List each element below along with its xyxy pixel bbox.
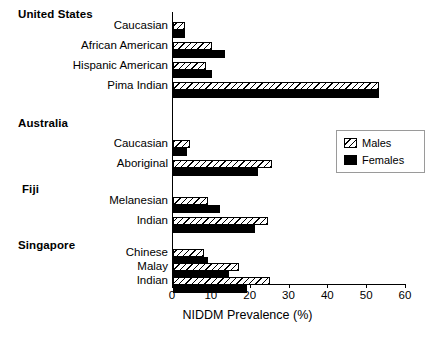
legend-swatch-females-icon bbox=[344, 155, 357, 165]
legend: Males Females bbox=[336, 130, 425, 173]
niddm-prevalence-chart: United StatesAustraliaFijiSingaporeCauca… bbox=[0, 0, 433, 338]
bar-males bbox=[173, 217, 268, 225]
legend-item-males: Males bbox=[344, 137, 391, 149]
category-label: Melanesian bbox=[0, 194, 168, 206]
category-label: Pima Indian bbox=[0, 79, 168, 91]
bar-males bbox=[173, 140, 190, 148]
bar-males bbox=[173, 197, 208, 205]
legend-swatch-males-icon bbox=[344, 138, 357, 148]
x-tick-label: 40 bbox=[321, 289, 334, 301]
bar-males bbox=[173, 62, 206, 70]
x-tick-label: 30 bbox=[282, 289, 295, 301]
bar-females bbox=[173, 285, 247, 293]
legend-label-females: Females bbox=[362, 154, 404, 166]
x-tick-mark bbox=[327, 284, 328, 288]
x-tick-mark bbox=[405, 284, 406, 288]
bar-males bbox=[173, 160, 272, 168]
bar-males bbox=[173, 42, 212, 50]
category-label: Caucasian bbox=[0, 19, 168, 31]
category-label: Indian bbox=[0, 274, 168, 286]
category-label: Indian bbox=[0, 214, 168, 226]
x-tick-mark bbox=[289, 284, 290, 288]
bar-females bbox=[173, 168, 258, 176]
x-axis-title-text: NIDDM Prevalence (%) bbox=[183, 308, 313, 322]
bar-males bbox=[173, 277, 270, 285]
bar-females bbox=[173, 205, 220, 213]
category-label: Malay bbox=[0, 260, 168, 272]
bar-females bbox=[173, 70, 212, 78]
bar-males bbox=[173, 82, 379, 90]
bar-females bbox=[173, 90, 379, 98]
bar-females bbox=[173, 225, 255, 233]
bar-males bbox=[173, 249, 204, 257]
category-label: Chinese bbox=[0, 246, 168, 258]
x-tick-label: 60 bbox=[399, 289, 412, 301]
x-tick-mark bbox=[366, 284, 367, 288]
category-label: Aboriginal bbox=[0, 157, 168, 169]
bar-females bbox=[173, 30, 185, 38]
legend-item-females: Females bbox=[344, 154, 404, 166]
bar-females bbox=[173, 50, 225, 58]
category-label: Caucasian bbox=[0, 137, 168, 149]
x-tick-label: 50 bbox=[360, 289, 373, 301]
bar-males bbox=[173, 22, 185, 30]
bar-males bbox=[173, 263, 239, 271]
legend-label-males: Males bbox=[362, 137, 391, 149]
category-label: Hispanic American bbox=[0, 59, 168, 71]
category-label: African American bbox=[0, 39, 168, 51]
x-axis-title: NIDDM Prevalence (%) bbox=[0, 308, 433, 322]
group-header-australia: Australia bbox=[18, 117, 68, 129]
bar-females bbox=[173, 148, 187, 156]
